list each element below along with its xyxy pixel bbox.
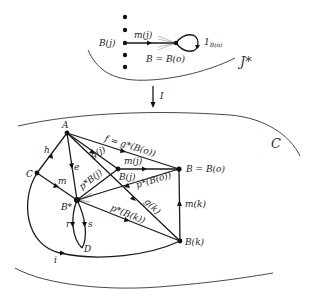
node-label-d: D: [83, 244, 91, 254]
edge-label-pBo: p*(B(o)): [135, 170, 173, 190]
node-label-bo-top: B = B(o): [145, 54, 185, 64]
node-bo: [176, 166, 181, 171]
edge-label-gk: g(k): [143, 196, 163, 216]
edge-label-mj: m(j): [124, 156, 143, 166]
node-label-c: C: [26, 169, 33, 179]
ellipsis-dot: [123, 28, 127, 32]
edge-label-r: r: [66, 219, 71, 229]
node-bk: [178, 239, 183, 244]
category-boundary-top: [18, 113, 300, 156]
node-label-bk: B(k): [184, 237, 205, 247]
ellipsis-dot: [123, 65, 127, 69]
edge-label-gj: g(j): [89, 144, 108, 160]
category-label-c: C: [271, 136, 281, 151]
arrowhead-icon: [82, 222, 87, 227]
edge-label-s: s: [88, 219, 93, 229]
ellipsis-dot: [123, 53, 127, 57]
edge-label-mj-top: m(j): [134, 30, 153, 40]
edge-label-f: f = g*(B(o)): [102, 133, 157, 158]
node-label-bstar: B*: [60, 202, 73, 212]
arrowhead-icon: [177, 200, 182, 206]
edge-i: [28, 173, 180, 257]
node-label-bo: B = B(o): [185, 164, 225, 174]
node-bo-top: [174, 41, 178, 45]
arrowhead-icon: [60, 251, 65, 256]
arrowhead-icon: [195, 45, 200, 49]
node-bj: [116, 167, 121, 172]
category-diagram: B(j) m(j) B = B(o) 1B(o) J* I C: [0, 0, 314, 302]
edge-label-e: e: [74, 162, 79, 172]
node-label-bj: B(j): [118, 172, 136, 182]
edge-label-m: m: [58, 176, 67, 186]
arrowhead-icon: [70, 222, 75, 227]
edge-label-pBk: p*(B(k)): [109, 203, 147, 226]
node-label-bj-top: B(j): [98, 38, 116, 48]
category-label-jstar: J*: [237, 54, 252, 69]
node-c: [35, 171, 40, 176]
edge-label-pBj: p*B(j): [77, 167, 105, 192]
edge-label-h: h: [44, 145, 50, 155]
top-diagram: B(j) m(j) B = B(o) 1B(o) J*: [88, 15, 252, 80]
bottom-diagram: C: [15, 113, 300, 289]
node-a: [65, 131, 70, 136]
arrowhead-icon: [151, 102, 156, 108]
node-bstar: [74, 197, 80, 203]
edge-label-i: i: [54, 255, 57, 265]
node-label-a: A: [61, 120, 69, 130]
identity-loop: [176, 35, 198, 52]
ellipsis-dot: [123, 15, 127, 19]
identity-label: 1B(o): [204, 37, 223, 48]
arrowhead-icon: [147, 41, 152, 46]
functor-arrow: I: [151, 86, 165, 108]
category-boundary-bottom: [15, 268, 273, 288]
edge-label-mk: m(k): [185, 199, 206, 209]
arrowhead-icon: [142, 167, 147, 172]
functor-label: I: [159, 91, 164, 101]
